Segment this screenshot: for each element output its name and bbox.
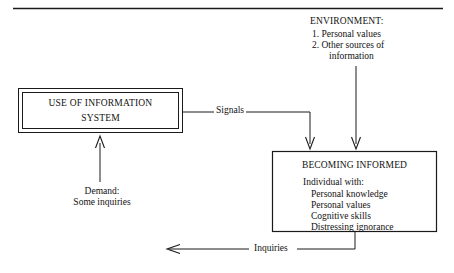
demand-edge-label-line2: Some inquiries — [53, 197, 151, 209]
use-of-information-system-box-outer — [19, 89, 183, 133]
signals-edge-label: Signals — [214, 105, 246, 117]
becoming-informed-subtitle: Individual with: — [303, 177, 364, 189]
becoming-informed-title: BECOMING INFORMED — [272, 160, 437, 172]
becoming-informed-item-2: Personal values — [311, 200, 370, 212]
becoming-informed-item-3: Cognitive skills — [311, 211, 371, 223]
becoming-informed-item-1: Personal knowledge — [311, 189, 388, 201]
environment-item-2: 2. Other sources of — [312, 40, 384, 52]
becoming-informed-item-4: Distressing ignorance — [311, 222, 394, 234]
environment-item-2-continuation: information — [329, 51, 374, 63]
use-of-information-system-label-line1: USE OF INFORMATION — [18, 98, 183, 110]
diagram-canvas: ENVIRONMENT: 1. Personal values 2. Other… — [0, 0, 454, 273]
use-of-information-system-label-line2: SYSTEM — [18, 113, 183, 125]
demand-edge-label-line1: Demand: — [62, 186, 142, 198]
inquiries-edge-label: Inquiries — [252, 243, 290, 255]
environment-item-1: 1. Personal values — [312, 29, 381, 41]
environment-title: ENVIRONMENT: — [310, 16, 384, 28]
